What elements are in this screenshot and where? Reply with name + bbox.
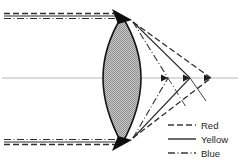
refracted-rays-top (133, 22, 211, 78)
incoming-ray-bundle-bottom (4, 140, 119, 145)
incoming-ray-bundle-top (4, 14, 119, 19)
legend-label-yellow: Yellow (201, 134, 228, 145)
legend-label-red: Red (201, 120, 218, 131)
refracted-ray-yellow-top (133, 22, 190, 78)
divergent-tail-yellow (190, 78, 206, 101)
refracted-rays-bottom (133, 78, 211, 138)
diagram-canvas: Red Yellow Blue (0, 0, 240, 160)
yellow-focus-arrow-icon (183, 75, 190, 82)
legend: Red Yellow Blue (168, 120, 228, 159)
chromatic-aberration-figure: Red Yellow Blue (0, 0, 240, 160)
divergent-tail-blue (168, 78, 186, 107)
lens-top-vertex-arrow-icon (112, 9, 132, 24)
biconvex-lens (103, 16, 141, 144)
lens-body-fill (103, 16, 141, 144)
refracted-ray-yellow-bottom (133, 78, 190, 138)
refracted-ray-red-bottom (133, 78, 211, 138)
legend-label-blue: Blue (201, 148, 220, 159)
divergent-ray-tails (168, 78, 206, 107)
lens-bottom-vertex-arrow-icon (112, 136, 132, 151)
refracted-ray-red-top (133, 22, 211, 78)
